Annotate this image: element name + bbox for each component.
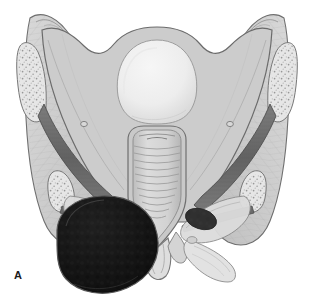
panel-label: A (14, 270, 22, 281)
sacral-promontory-dome (117, 40, 196, 124)
perineal-nodule (187, 237, 197, 244)
anatomy-illustration (0, 0, 314, 301)
brim-node-left (81, 121, 88, 126)
brim-node-right (227, 121, 234, 126)
anatomy-figure: A (0, 0, 314, 301)
